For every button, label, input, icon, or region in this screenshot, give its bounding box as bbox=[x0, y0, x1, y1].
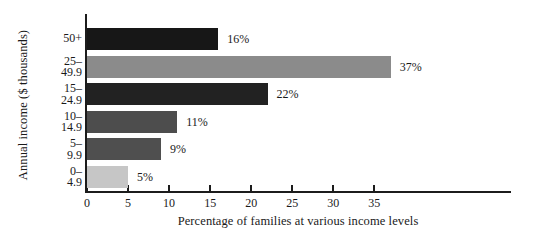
bar-value-label: 37% bbox=[400, 60, 422, 74]
bars-group: 16%37%22%11%9%5% bbox=[0, 0, 534, 243]
bar bbox=[87, 83, 268, 105]
bar-value-label: 11% bbox=[186, 115, 208, 129]
bar bbox=[87, 138, 161, 160]
bar bbox=[87, 56, 391, 78]
bar bbox=[87, 166, 128, 188]
bar-value-label: 9% bbox=[170, 142, 186, 156]
x-axis-title: Percentage of families at various income… bbox=[85, 214, 511, 229]
bar-value-label: 22% bbox=[277, 87, 299, 101]
bar bbox=[87, 28, 218, 50]
bar-value-label: 5% bbox=[137, 170, 153, 184]
bar bbox=[87, 111, 177, 133]
bar-value-label: 16% bbox=[227, 32, 249, 46]
bar-chart: Annual income ($ thousands) 50+25–49.915… bbox=[0, 0, 534, 243]
